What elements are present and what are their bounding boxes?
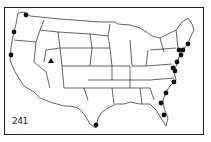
figure-label: 241	[12, 116, 28, 126]
marker-triangle-utah	[48, 58, 54, 63]
marker-circle-texas	[94, 123, 99, 128]
marker-circle-south-carolina	[164, 91, 169, 96]
marker-circle-oregon	[12, 30, 17, 35]
marker-circle-florida-north	[159, 101, 164, 106]
marker-circle-north-carolina	[172, 80, 177, 85]
markers	[9, 13, 191, 128]
marker-circle-new-york	[179, 53, 184, 58]
marker-circle-rhode-island	[181, 48, 186, 53]
us-outline	[10, 12, 194, 128]
marker-circle-florida-south	[162, 113, 167, 118]
marker-circle-maryland	[173, 69, 178, 74]
marker-circle-new-jersey	[175, 60, 180, 65]
marker-circle-massachusetts	[186, 42, 191, 47]
marker-circle-california	[9, 53, 14, 58]
marker-circle-washington	[24, 13, 29, 18]
us-map	[0, 0, 211, 142]
